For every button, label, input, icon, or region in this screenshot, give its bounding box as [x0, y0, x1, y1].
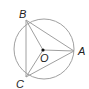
label-a: A: [77, 45, 85, 57]
segment-ob: [26, 20, 43, 50]
segment-oa: [43, 50, 74, 51]
label-o: O: [40, 52, 49, 64]
label-c: C: [16, 78, 24, 89]
label-b: B: [19, 8, 26, 20]
circle-triangle-diagram: B A O C: [0, 0, 89, 89]
